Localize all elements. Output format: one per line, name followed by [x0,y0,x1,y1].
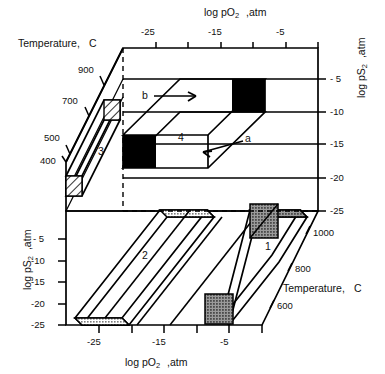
annotation-label-b: b [142,90,148,101]
right-axis-tick-1: - 5 [330,74,341,84]
region-label-2: 2 [142,250,148,261]
upper-depth-axis-title-text: Temperature, [18,37,80,49]
upper-depth-axis-title: Temperature,C [18,38,96,49]
upper-depth-tick-400: 400 [40,156,56,166]
bottom-axis-tick-2: -15 [152,337,166,347]
left-axis-tick-1: - 5 [33,234,44,244]
top-axis-title: log pO2,atm [204,7,267,20]
top-axis-tick-1: -25 [141,27,155,37]
region-label-3: 3 [98,146,104,157]
right-axis-title-main: log pS [355,68,367,98]
lower-depth-axis-title-unit: C [345,282,362,294]
top-axis-tick-2: -15 [208,27,222,37]
region-label-1: 1 [265,241,271,252]
diagram-canvas [0,0,385,374]
left-axis-title-main: log pS [21,260,33,290]
top-axis-title-main: log pO [204,6,235,18]
region-label-4: 4 [178,132,184,143]
lower-depth-tick-600: 600 [277,301,293,311]
left-axis-tick-4: -20 [31,299,45,309]
left-axis-title-unit: ,atm [21,230,33,256]
right-axis-tick-2: -10 [330,107,344,117]
lower-depth-axis-title-text: Temperature, [283,282,345,294]
right-axis-ticks [318,79,326,211]
upper-depth-tick-700: 700 [62,96,78,106]
bottom-axis-tick-1: -25 [87,337,101,347]
back-wall-frame [66,48,318,211]
right-axis-title-sub: 2 [360,64,369,68]
right-axis-tick-5: -25 [330,206,344,216]
lower-left-axis-ticks [58,239,66,325]
upper-depth-tick-500: 500 [44,133,60,143]
bottom-axis-tick-3: -5 [220,337,228,347]
dashed-guides [123,48,318,211]
annotation-arrow-b [154,92,196,101]
top-axis-ticks [156,42,318,48]
top-axis-tick-3: -5 [276,27,284,37]
upper-depth-tick-900: 900 [78,65,94,75]
left-axis-title-sub: 2 [26,256,35,260]
lower-depth-tick-800: 800 [295,264,311,274]
bottom-axis-title: log pO2,atm [125,357,188,370]
right-axis-title: log pS2,atm [356,38,369,98]
right-axis-title-unit: ,atm [355,38,367,64]
lower-depth-axis-title: Temperature,C [283,283,361,294]
stability-diagram-figure: log pO2,atm -25 -15 -5 Temperature,C 900… [0,0,385,374]
annotation-label-a: a [245,133,251,144]
bottom-axis-ticks [99,325,262,333]
bottom-axis-title-unit: ,atm [160,356,187,368]
right-axis-tick-3: -15 [330,139,344,149]
left-axis-tick-5: -25 [31,320,45,330]
top-axis-title-unit: ,atm [239,6,266,18]
lower-depth-tick-1000: 1000 [313,228,334,238]
right-axis-tick-4: -20 [330,173,344,183]
left-axis-title: log pS2,atm [22,230,35,290]
region-3-prism [66,100,120,196]
upper-depth-axis-title-unit: C [80,37,97,49]
bottom-axis-title-main: log pO [125,356,156,368]
